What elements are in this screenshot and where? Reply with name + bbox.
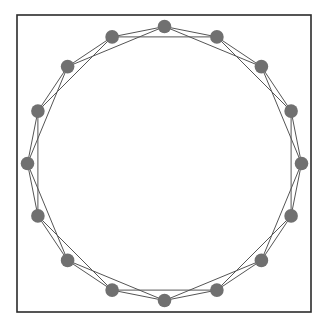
figure-root	[0, 0, 328, 331]
graph-node	[158, 20, 172, 34]
graph-node	[210, 283, 224, 297]
graph-node	[21, 157, 35, 171]
figure-background	[0, 0, 328, 331]
graph-node	[61, 254, 75, 268]
graph-node	[105, 283, 119, 297]
graph-node	[31, 209, 45, 223]
ring-lattice-graph	[0, 0, 328, 331]
graph-node	[284, 104, 298, 118]
graph-node	[295, 157, 309, 171]
graph-node	[105, 30, 119, 44]
graph-node	[31, 104, 45, 118]
graph-node	[284, 209, 298, 223]
graph-node	[255, 60, 269, 74]
graph-node	[61, 60, 75, 74]
graph-node	[255, 254, 269, 268]
graph-node	[158, 294, 172, 308]
graph-node	[210, 30, 224, 44]
